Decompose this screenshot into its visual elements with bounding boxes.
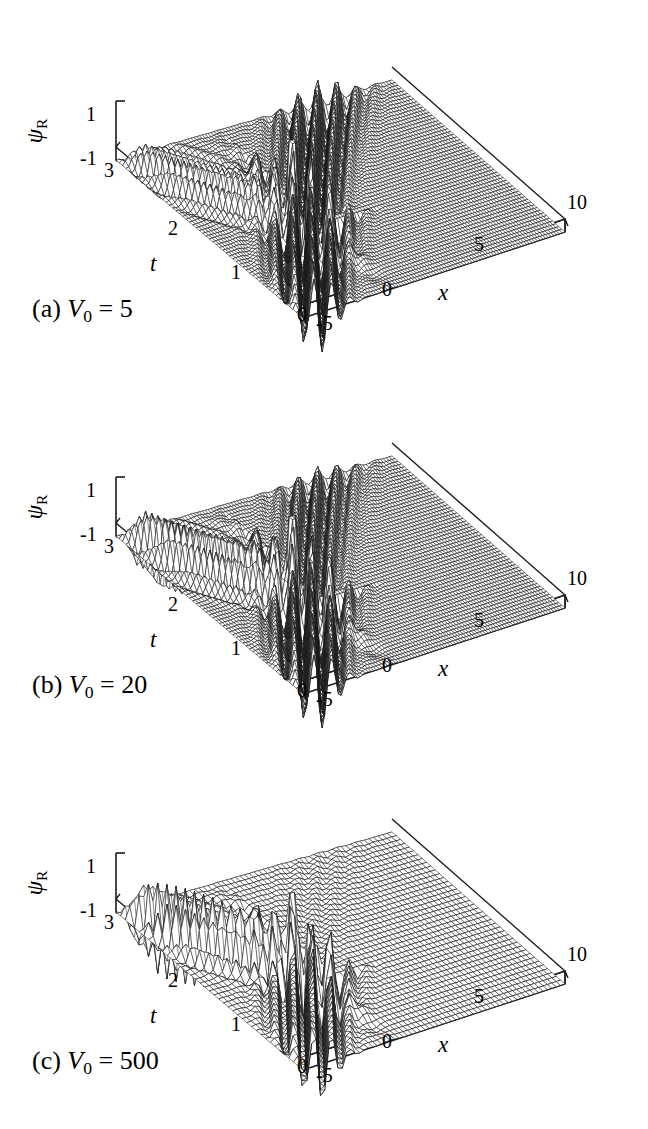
t-tick-1-c: 1 <box>231 1014 241 1034</box>
t-tick-0-b: 0 <box>297 680 307 700</box>
z-axis-bracket-a <box>116 101 125 161</box>
panel-a: ψR1-10123-50510tx(a) V0 = 5 <box>0 0 648 376</box>
x-tick-5-a: 5 <box>474 234 484 254</box>
x-tick-0-c: 0 <box>382 1031 392 1051</box>
axis-label-t-a: t <box>150 252 156 275</box>
z-tick-1-b: 1 <box>86 480 96 500</box>
t-tick-0-a: 0 <box>297 304 307 324</box>
x-tick-m5-b: -5 <box>316 689 333 709</box>
axis-label-x-c: x <box>438 1033 448 1056</box>
z-tick-m1-a: -1 <box>80 148 97 168</box>
t-tick-1-a: 1 <box>231 262 241 282</box>
panel-caption-a: (a) V0 = 5 <box>32 296 133 326</box>
z-tick-1-a: 1 <box>86 104 96 124</box>
t-tick-2-a: 2 <box>168 218 178 238</box>
panel-caption-c: (c) V0 = 500 <box>32 1048 159 1078</box>
t-tick-3-a: 3 <box>104 160 114 180</box>
x-tick-10-a: 10 <box>567 192 587 212</box>
x-tick-5-c: 5 <box>474 986 484 1006</box>
panel-caption-b: (b) V0 = 20 <box>32 672 147 702</box>
x-tick-0-a: 0 <box>382 279 392 299</box>
axis-label-psi-b: ψR <box>23 495 49 520</box>
t-tick-0-c: 0 <box>297 1056 307 1076</box>
z-tick-1-c: 1 <box>86 856 96 876</box>
axis-label-x-b: x <box>438 657 448 680</box>
x-tick-m5-c: -5 <box>316 1065 333 1085</box>
t-tick-1-b: 1 <box>231 638 241 658</box>
wireframe-mesh-c <box>116 832 565 1096</box>
z-tick-m1-c: -1 <box>80 900 97 920</box>
x-tick-m5-a: -5 <box>316 313 333 333</box>
axis-label-x-a: x <box>438 281 448 304</box>
t-tick-2-c: 2 <box>168 970 178 990</box>
panel-c: ψR1-10123-50510tx(c) V0 = 500 <box>0 752 648 1128</box>
axis-label-psi-a: ψR <box>23 119 49 144</box>
z-axis-bracket-b <box>116 477 125 537</box>
axis-label-t-b: t <box>150 628 156 651</box>
x-tick-0-b: 0 <box>382 655 392 675</box>
wireframe-mesh-a <box>116 80 565 352</box>
z-axis-bracket-c <box>116 853 125 913</box>
x-tick-10-c: 10 <box>567 944 587 964</box>
t-tick-2-b: 2 <box>168 594 178 614</box>
z-tick-m1-b: -1 <box>80 524 97 544</box>
x-tick-10-b: 10 <box>567 568 587 588</box>
t-tick-3-c: 3 <box>104 912 114 932</box>
axis-label-t-c: t <box>150 1004 156 1027</box>
wireframe-mesh-b <box>116 456 565 728</box>
axis-label-psi-c: ψR <box>23 871 49 896</box>
t-tick-3-b: 3 <box>104 536 114 556</box>
panel-b: ψR1-10123-50510tx(b) V0 = 20 <box>0 376 648 752</box>
x-tick-5-b: 5 <box>474 610 484 630</box>
